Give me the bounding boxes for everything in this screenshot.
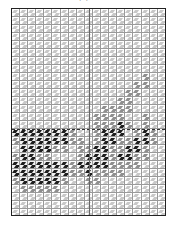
grid-cell [52, 9, 60, 17]
grid-cell [36, 185, 44, 193]
grid-cell [117, 137, 125, 145]
grid-cell [44, 137, 52, 145]
grid-cell [20, 73, 28, 81]
grid-cell [77, 57, 85, 65]
grid-cell [12, 153, 20, 161]
grid-cell [93, 17, 101, 25]
grid-cell [44, 81, 52, 89]
grid-cell [125, 153, 133, 161]
grid-cell [77, 65, 85, 73]
grid-cell [12, 9, 20, 17]
grid-cell [125, 169, 133, 177]
grid-cell [93, 137, 101, 145]
grid-cell [101, 129, 109, 137]
grid-cell [109, 41, 117, 49]
grid-cell [28, 137, 36, 145]
grid-cell [109, 129, 117, 137]
grid-cell [77, 73, 85, 81]
grid-cell [101, 57, 109, 65]
grid-cell [36, 97, 44, 105]
grid-cell [77, 121, 85, 129]
grid-cell [77, 129, 85, 137]
grid-cell [125, 185, 133, 193]
grid-cell [61, 89, 69, 97]
grid-cell [52, 177, 60, 185]
grid-cell [142, 25, 150, 33]
grid-cell [61, 137, 69, 145]
grid-cell [44, 121, 52, 129]
grid-cell [150, 105, 158, 113]
grid-cell [36, 161, 44, 169]
grid-cell [109, 33, 117, 41]
grid-cell [109, 9, 117, 17]
grid-cell [101, 105, 109, 113]
grid-cell [142, 81, 150, 89]
grid-cell [36, 81, 44, 89]
grid-cell [125, 177, 133, 185]
grid-cell [133, 193, 141, 201]
grid-cell [150, 185, 158, 193]
grid-cell [77, 97, 85, 105]
grid-cell [142, 73, 150, 81]
grid-cell [28, 17, 36, 25]
grid-cell [150, 169, 158, 177]
grid-cell [125, 137, 133, 145]
grid-cell [12, 41, 20, 49]
grid-cell [12, 73, 20, 81]
grid-cell [12, 97, 20, 105]
grid-cell [133, 81, 141, 89]
grid-cell [77, 25, 85, 33]
grid-cell [12, 177, 20, 185]
grid-cell [150, 41, 158, 49]
grid-cell [69, 9, 77, 17]
grid-cell [44, 145, 52, 153]
grid-cell [133, 185, 141, 193]
grid-cell [52, 57, 60, 65]
grid-cell [117, 25, 125, 33]
grid-cell [69, 121, 77, 129]
grid-cell [158, 33, 166, 41]
grid-cell [142, 9, 150, 17]
grid-cell [101, 89, 109, 97]
grid-cell [52, 33, 60, 41]
grid-cell [61, 65, 69, 73]
grid-cell [125, 41, 133, 49]
grid-cell [44, 201, 52, 209]
grid-cell [69, 65, 77, 73]
grid-cell [20, 177, 28, 185]
grid-cell [44, 9, 52, 17]
grid-cell [125, 121, 133, 129]
grid-cell [158, 169, 166, 177]
grid-cell [61, 105, 69, 113]
grid-cell [20, 17, 28, 25]
grid-cell [150, 137, 158, 145]
grid-cell [44, 65, 52, 73]
grid-cell [158, 153, 166, 161]
grid-cell [93, 169, 101, 177]
grid-cell [142, 57, 150, 65]
grid-cell [125, 49, 133, 57]
grid-cell [142, 153, 150, 161]
grid-cell [133, 25, 141, 33]
grid-cell [109, 177, 117, 185]
grid-cell [20, 57, 28, 65]
grid-cell [109, 81, 117, 89]
grid-cell [109, 57, 117, 65]
grid-cell [93, 161, 101, 169]
grid-cell [117, 161, 125, 169]
grid-cell [61, 209, 69, 216]
grid-cell [93, 129, 101, 137]
grid-cell [158, 17, 166, 25]
grid-cell [52, 113, 60, 121]
grid-cell [150, 65, 158, 73]
grid-cell [69, 57, 77, 65]
grid-cell [61, 97, 69, 105]
grid-cell [109, 105, 117, 113]
grid-cell [28, 193, 36, 201]
grid-cell [28, 49, 36, 57]
grid-cell [20, 89, 28, 97]
grid-cell [61, 129, 69, 137]
grid-cell [125, 161, 133, 169]
grid-cell [28, 81, 36, 89]
grid-cell [109, 25, 117, 33]
